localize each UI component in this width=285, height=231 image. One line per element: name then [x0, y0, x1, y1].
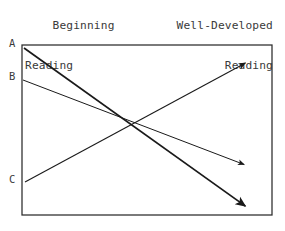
figure-canvas: [0, 0, 285, 231]
reading-development-figure: Beginning Reading Well-Developed Reading…: [0, 0, 285, 231]
plot-frame: [22, 45, 272, 215]
series-line-b: [23, 80, 244, 165]
series-line-c: [25, 63, 245, 182]
series-line-a: [24, 48, 245, 206]
